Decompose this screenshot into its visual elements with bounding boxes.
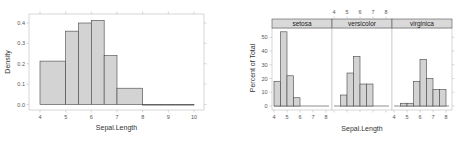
y-tick-label: 0.0 — [17, 102, 25, 108]
histogram-bar — [360, 84, 367, 106]
histogram-bar — [294, 98, 301, 106]
histogram-bar — [367, 84, 374, 106]
x-tick-label: 7 — [311, 114, 314, 120]
histogram-bar — [281, 32, 288, 106]
histogram-bar — [143, 105, 194, 106]
x-tick-label: 8 — [141, 114, 144, 120]
x-tick-label: 6 — [90, 114, 93, 120]
histogram-bar — [354, 57, 361, 106]
x-tick-label: 6 — [418, 114, 421, 120]
histogram-bar — [414, 81, 421, 106]
figure: 456789100.00.10.20.30.4Sepal.LengthDensi… — [0, 0, 459, 141]
y-tick-label: 0.1 — [17, 81, 25, 87]
strip-label: versicolor — [348, 20, 377, 27]
y-axis-label: Percent of Total — [249, 43, 256, 92]
histogram-bar — [79, 23, 92, 105]
y-tick-label: 0.4 — [17, 20, 25, 26]
strip-label: virginica — [410, 20, 434, 28]
histogram-bar — [427, 79, 434, 106]
x-tick-label: 5 — [345, 9, 348, 15]
x-axis-label: Sepal.Length — [341, 125, 382, 133]
panel-virginica: virginica45678 — [392, 19, 452, 120]
y-tick-label: 20 — [261, 76, 267, 82]
x-tick-label: 5 — [64, 114, 67, 120]
y-tick-label: 10 — [261, 89, 267, 95]
x-tick-label: 5 — [405, 114, 408, 120]
x-axis-label: Sepal.Length — [96, 124, 137, 132]
y-tick-label: 0.2 — [17, 61, 25, 67]
histogram-bar — [117, 88, 143, 104]
y-tick-label: 40 — [261, 48, 267, 54]
x-tick-label: 8 — [324, 114, 327, 120]
x-tick-label: 4 — [272, 114, 275, 120]
histogram-bar — [66, 31, 79, 104]
x-tick-label: 10 — [191, 114, 197, 120]
x-tick-label: 4 — [38, 114, 41, 120]
histogram-bar — [40, 61, 66, 104]
x-tick-label: 7 — [431, 114, 434, 120]
density-histogram: 456789100.00.10.20.30.4Sepal.LengthDensi… — [4, 12, 207, 133]
histogram-bar — [440, 90, 447, 106]
y-tick-label: 30 — [261, 62, 267, 68]
x-tick-label: 6 — [298, 114, 301, 120]
histogram-bar — [274, 81, 281, 106]
histogram-bar — [341, 95, 348, 106]
histogram-bar — [91, 20, 104, 104]
x-tick-label: 8 — [384, 9, 387, 15]
y-axis-label: Density — [4, 50, 12, 74]
histogram-bar — [401, 103, 408, 106]
x-tick-label: 4 — [392, 114, 395, 120]
histogram-bar — [287, 76, 294, 106]
panel-setosa: setosa45678 — [272, 19, 332, 120]
x-tick-label: 6 — [358, 9, 361, 15]
histogram-bar — [407, 103, 414, 106]
histogram-bar — [104, 56, 117, 105]
x-tick-label: 8 — [444, 114, 447, 120]
x-tick-label: 7 — [371, 9, 374, 15]
histogram-bar — [433, 90, 440, 106]
x-tick-label: 7 — [115, 114, 118, 120]
y-tick-label: 0.3 — [17, 40, 25, 46]
y-tick-label: 50 — [261, 34, 267, 40]
x-tick-label: 9 — [167, 114, 170, 120]
strip-label: setosa — [292, 20, 312, 27]
panel-versicolor: versicolor45678 — [332, 9, 392, 113]
percent-histogram-by-species: setosa45678versicolor45678virginica45678… — [249, 9, 455, 133]
histogram-bar — [347, 73, 354, 106]
histogram-bar — [420, 59, 427, 106]
x-tick-label: 5 — [285, 114, 288, 120]
y-tick-label: 0 — [264, 103, 267, 109]
x-tick-label: 4 — [332, 9, 335, 15]
